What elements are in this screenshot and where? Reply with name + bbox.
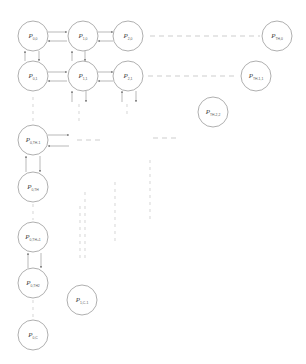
node-p0c: P0,C [18,320,48,350]
node-p0th: P0,TH [18,172,48,202]
node-p20: P2,0 [113,21,143,51]
dashed-continuations [33,36,260,318]
nodes: P0,0P1,0P2,0PTH,0P0,1P1,1P2,1PTH-1,1PTH-… [18,21,292,350]
processor-grid-diagram: P0,0P1,0P2,0PTH,0P0,1P1,1P2,1PTH-1,1PTH-… [0,0,306,364]
node-p1cm1: P1,C-1 [67,285,97,315]
node-p0th2: P0,TH2 [18,268,48,298]
node-p0thm1: P0,TH-1 [18,125,48,155]
node-p11: P1,1 [68,61,98,91]
node-p21: P2,1 [113,61,143,91]
node-p0thp1: P0,TH+1 [18,222,48,252]
node-pth11: PTH-1,1 [241,61,271,91]
node-pth0: PTH,0 [262,21,292,51]
node-p10: P1,0 [68,21,98,51]
node-p00: P0,0 [18,21,48,51]
node-p01: P0,1 [18,61,48,91]
node-pth22: PTH-2,2 [198,97,228,127]
